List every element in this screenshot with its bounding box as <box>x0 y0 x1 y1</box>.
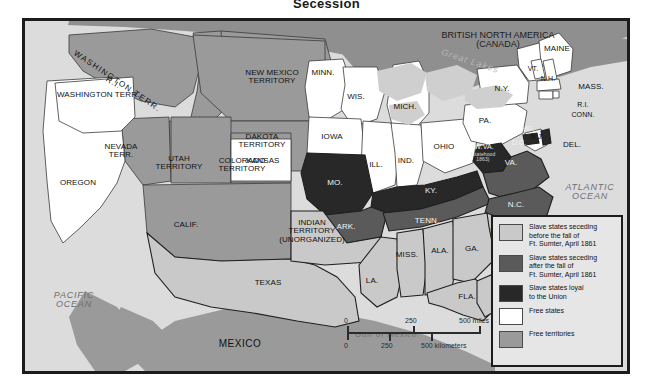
label-missouri: MO. <box>321 179 349 187</box>
label-district-of-columbia: D.C. <box>507 139 531 146</box>
legend-swatch-seceded-after <box>499 255 523 272</box>
legend-swatch-free-states <box>499 308 523 325</box>
scale-tick-max-mi <box>479 326 481 334</box>
label-west-virginia-statehood: (statehood 1863) <box>463 152 503 162</box>
label-colorado-territory: COLORADO TERRITORY <box>211 157 273 174</box>
legend-item-slave-loyal: Slave states loyal to the Union <box>499 284 616 302</box>
legend-label-free-states: Free states <box>529 307 564 316</box>
label-kentucky: KY. <box>417 187 445 195</box>
legend-label-free-territories: Free territories <box>529 330 575 339</box>
label-utah-territory: UTAH TERRITORY <box>149 155 209 172</box>
legend-swatch-free-territories <box>499 331 523 348</box>
label-connecticut: CONN. <box>565 111 601 118</box>
label-iowa: IOWA <box>317 133 347 141</box>
label-nebraska-territory: DAKOTA TERRITORY <box>207 133 317 150</box>
label-rhode-island: R.I. <box>571 101 595 108</box>
legend-label-seceded-before: Slave states seceding before the fall of… <box>529 223 597 249</box>
legend-item-free-states: Free states <box>499 307 616 325</box>
label-new-york: N.Y. <box>487 85 517 93</box>
label-virginia: VA. <box>499 159 523 167</box>
legend-item-seceded-before: Slave states seceding before the fall of… <box>499 223 616 249</box>
label-minnesota: MINN. <box>307 69 339 77</box>
scale-miles-mid: 250 <box>405 317 417 324</box>
scale-tick-max-km <box>431 333 433 341</box>
label-delaware: DEL. <box>557 141 587 149</box>
label-mexico: MEXICO <box>205 339 275 350</box>
legend-label-slave-loyal: Slave states loyal to the Union <box>529 284 583 301</box>
legend-item-free-territories: Free territories <box>499 330 616 348</box>
legend-swatch-slave-loyal <box>499 285 523 302</box>
page-title: Secession <box>0 0 653 8</box>
label-maryland: MD. <box>517 125 539 132</box>
secession-map: .sb{fill:#c9c9c9;} /* seceded before */ … <box>22 18 630 374</box>
label-louisiana: LA. <box>361 277 383 285</box>
legend-swatch-seceded-before <box>499 224 523 241</box>
label-north-carolina: N.C. <box>501 201 531 209</box>
label-tennessee: TENN. <box>407 217 447 225</box>
scale-tick-mid-mi <box>413 326 415 334</box>
legend-label-seceded-after: Slave states seceding after the fall of … <box>529 254 597 280</box>
label-ohio: OHIO <box>429 143 459 151</box>
label-oregon: WASHINGTON TERR. <box>57 91 105 99</box>
label-indian-territory: INDIAN TERRITORY (UNORGANIZED) <box>271 219 353 244</box>
label-michigan: MICH. <box>387 103 423 111</box>
label-mississippi: MISS. <box>389 251 425 259</box>
label-alabama: ALA. <box>425 247 455 255</box>
scale-miles-max: 500 miles <box>459 317 489 324</box>
label-georgia: GA. <box>459 245 485 253</box>
scale-bar: 0 250 500 miles 0 250 500 kilometers <box>343 315 503 355</box>
scale-tick-0 <box>347 326 349 340</box>
label-indiana: IND. <box>393 157 419 165</box>
label-california: OREGON <box>57 179 99 187</box>
legend-item-seceded-after: Slave states seceding after the fall of … <box>499 254 616 280</box>
scale-km-mid: 250 <box>381 342 393 349</box>
label-west-virginia: W.VA. <box>469 143 499 150</box>
label-pacific-ocean: PACIFIC OCEAN <box>39 291 109 310</box>
label-nevada-territory: NEVADA TERR. <box>97 143 145 160</box>
label-atlantic-ocean: ATLANTIC OCEAN <box>553 183 627 202</box>
label-new-mexico-territory: CALIF. <box>143 221 229 229</box>
label-vermont: VT. <box>523 65 543 72</box>
label-wisconsin: WIS. <box>343 93 369 101</box>
label-florida: FLA. <box>453 293 481 301</box>
label-maine: MAINE <box>537 45 577 53</box>
map-legend: Slave states seceding before the fall of… <box>491 215 623 367</box>
label-pennsylvania: PA. <box>471 117 499 125</box>
scale-km-zero: 0 <box>344 342 348 349</box>
label-new-hampshire: N.H. <box>537 75 559 82</box>
scale-tick-mid-km <box>389 333 391 341</box>
label-illinois: ILL. <box>365 161 387 169</box>
label-dakota-territory: NEW MEXICO TERRITORY <box>237 69 307 86</box>
label-texas: TEXAS <box>247 279 289 287</box>
label-massachusetts: MASS. <box>571 83 611 91</box>
scale-km-max: 500 kilometers <box>421 342 467 349</box>
scale-miles-zero: 0 <box>344 317 348 324</box>
